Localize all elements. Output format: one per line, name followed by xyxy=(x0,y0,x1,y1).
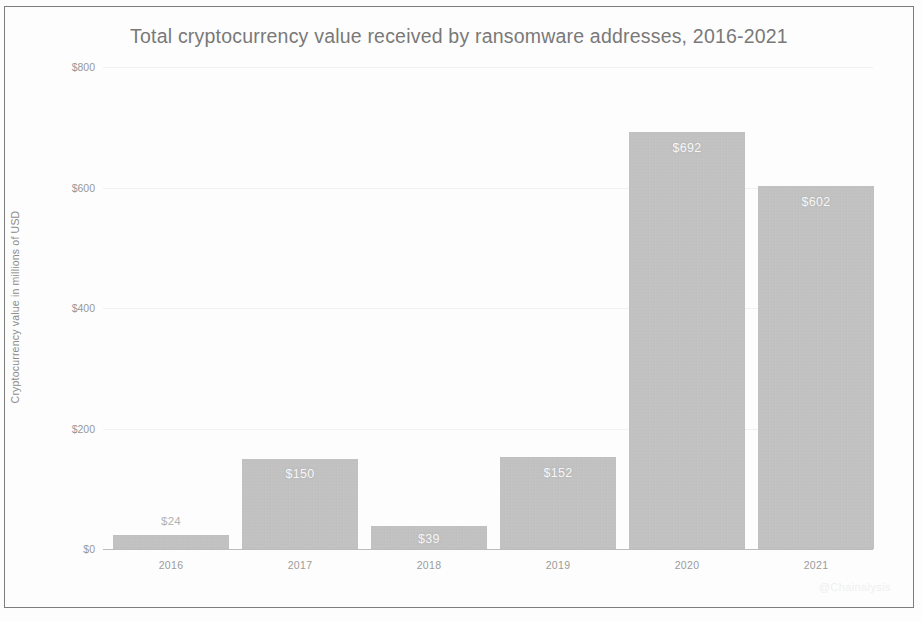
source-watermark: @Chainalysis xyxy=(819,581,891,593)
figure-frame: Total cryptocurrency value received by r… xyxy=(4,6,914,608)
y-tick-label-600: $600 xyxy=(72,182,95,194)
y-axis-title: Cryptocurrency value in millions of USD xyxy=(9,211,21,404)
bar-value-label-2019: $152 xyxy=(500,466,616,480)
bar-value-label-2020: $692 xyxy=(629,141,745,155)
bar-value-label-2016: $24 xyxy=(113,515,229,527)
bar-group-2020: $692 2020 xyxy=(629,67,745,549)
x-tick-label-2017: 2017 xyxy=(242,559,358,571)
chart-title: Total cryptocurrency value received by r… xyxy=(5,25,913,48)
bar-group-2017: $150 2017 xyxy=(242,67,358,549)
bar-group-2016: $24 2016 xyxy=(113,67,229,549)
y-tick-label-800: $800 xyxy=(72,61,95,73)
bar-2021[interactable] xyxy=(758,186,874,549)
bar-value-label-2018: $39 xyxy=(371,532,487,546)
bar-series: $24 2016 $150 2017 $39 2018 xyxy=(103,67,873,549)
x-tick-label-2020: 2020 xyxy=(629,559,745,571)
bar-2020[interactable] xyxy=(629,132,745,549)
y-tick-label-200: $200 xyxy=(72,423,95,435)
y-tick-label-0: $0 xyxy=(83,543,95,555)
x-tick-label-2021: 2021 xyxy=(758,559,874,571)
bar-value-label-2021: $602 xyxy=(758,195,874,209)
bar-2016[interactable] xyxy=(113,535,229,550)
plot-area: $800 $600 $400 $200 $0 $24 2016 xyxy=(103,67,873,549)
screenshot-root: Total cryptocurrency value received by r… xyxy=(0,0,922,622)
bar-group-2018: $39 2018 xyxy=(371,67,487,549)
y-tick-label-400: $400 xyxy=(72,302,95,314)
bar-value-label-2017: $150 xyxy=(242,467,358,481)
x-tick-label-2018: 2018 xyxy=(371,559,487,571)
axis-baseline: $0 xyxy=(103,549,873,550)
bar-group-2021: $602 2021 xyxy=(758,67,874,549)
x-tick-label-2016: 2016 xyxy=(113,559,229,571)
x-tick-label-2019: 2019 xyxy=(500,559,616,571)
bar-group-2019: $152 2019 xyxy=(500,67,616,549)
